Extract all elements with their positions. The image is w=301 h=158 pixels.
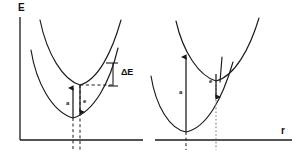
delta-e-label: ΔE bbox=[121, 68, 133, 77]
left-absorption-label: a bbox=[66, 100, 69, 106]
right-emission-label: e bbox=[209, 78, 212, 84]
left-excited-state-parabola bbox=[40, 20, 121, 85]
configuration-coordinate-diagram: E r ΔE a e a e bbox=[0, 0, 301, 158]
right-absorption-label: a bbox=[179, 89, 182, 95]
right-excited-state-parabola bbox=[176, 18, 259, 81]
left-panel-group bbox=[31, 20, 121, 150]
energy-axis-label: E bbox=[18, 3, 25, 13]
diagram-canvas bbox=[0, 0, 301, 158]
right-panel-group bbox=[151, 18, 259, 150]
axes-group bbox=[20, 17, 292, 140]
left-emission-label: e bbox=[83, 98, 86, 104]
coordinate-axis-label: r bbox=[281, 126, 285, 136]
